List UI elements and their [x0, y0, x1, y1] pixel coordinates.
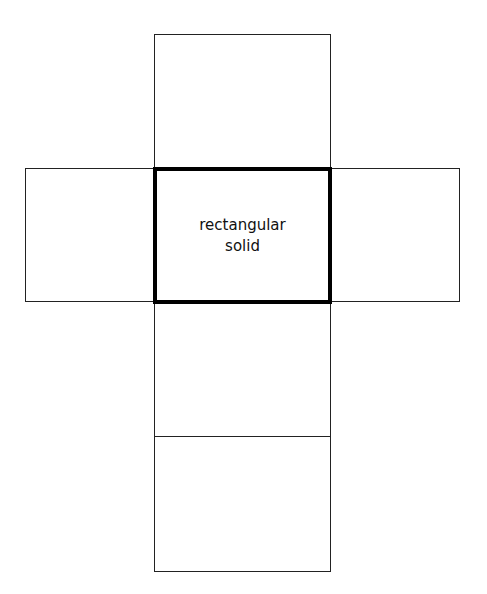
center-label-line1: rectangular [199, 215, 285, 236]
center-label-line2: solid [199, 236, 285, 257]
face-bottom-1 [154, 300, 331, 437]
face-bottom-2 [154, 436, 331, 572]
center-label: rectangular solid [199, 215, 285, 257]
face-left [25, 168, 156, 302]
face-right [329, 168, 460, 302]
face-center-rectangular-solid: rectangular solid [153, 167, 332, 304]
face-top [154, 34, 331, 171]
